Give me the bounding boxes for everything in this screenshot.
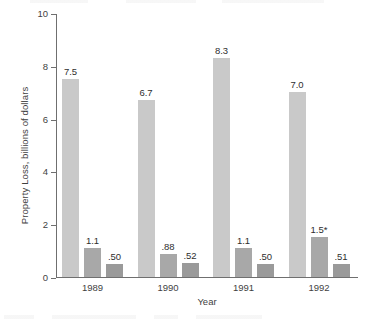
bar-value-label: .50 [259, 251, 272, 262]
bar: 6.7 [138, 100, 155, 277]
y-tick-label: 4 [22, 166, 48, 177]
y-tick [51, 172, 56, 173]
bar-value-label: 8.3 [215, 45, 228, 56]
y-tick [51, 225, 56, 226]
y-axis-line [56, 14, 57, 278]
bar: .50 [257, 264, 274, 277]
y-tick-label: 6 [22, 114, 48, 125]
bar: 1.1 [84, 248, 101, 277]
bar-value-label: 1.1 [86, 235, 99, 246]
bar: .51 [333, 264, 350, 277]
y-tick [51, 278, 56, 279]
bar: 8.3 [213, 58, 230, 277]
bar-group: 7.51.1.50 [62, 14, 123, 277]
bar-value-label: 6.7 [139, 87, 152, 98]
bar-value-label: 1.5* [311, 224, 328, 235]
bar-value-label: .88 [161, 241, 174, 252]
bar-chart: Property Loss, billions of dollars 02468… [0, 0, 369, 320]
y-tick-label: 2 [22, 219, 48, 230]
bar-value-label: .51 [334, 251, 347, 262]
plot-area: 0246810 7.51.1.506.7.88.528.31.1.507.01.… [56, 14, 358, 278]
bar: 7.5 [62, 79, 79, 277]
y-tick [51, 120, 56, 121]
x-category-label: 1992 [289, 282, 349, 293]
bar-group: 7.01.5*.51 [289, 14, 350, 277]
x-category-label: 1991 [214, 282, 274, 293]
bar: 1.5* [311, 237, 328, 277]
y-tick-label: 10 [22, 8, 48, 19]
bar-value-label: 7.5 [64, 66, 77, 77]
y-tick [51, 14, 56, 15]
bar-group: 6.7.88.52 [138, 14, 199, 277]
page-scan-artifact-top [30, 0, 350, 3]
bar-value-label: 1.1 [237, 235, 250, 246]
page-scan-artifact-bottom [4, 315, 304, 319]
x-category-label: 1990 [138, 282, 198, 293]
x-axis-line [56, 277, 358, 278]
x-category-label: 1989 [63, 282, 123, 293]
bar-value-label: 7.0 [290, 79, 303, 90]
bar: 7.0 [289, 92, 306, 277]
bar: .50 [106, 264, 123, 277]
x-axis-title: Year [56, 296, 358, 307]
y-tick-label: 0 [22, 272, 48, 283]
y-axis-title: Property Loss, billions of dollars [19, 41, 30, 271]
bar: 1.1 [235, 248, 252, 277]
bar: .52 [182, 263, 199, 277]
y-tick [51, 67, 56, 68]
bar: .88 [160, 254, 177, 277]
y-tick-label: 8 [22, 61, 48, 72]
bar-value-label: .52 [183, 250, 196, 261]
bar-group: 8.31.1.50 [213, 14, 274, 277]
bar-value-label: .50 [108, 251, 121, 262]
